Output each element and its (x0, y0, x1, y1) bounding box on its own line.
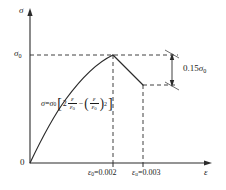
formula-fraction-1: εε0 (68, 96, 77, 112)
stress-strain-figure: σ ε 0 σ0 ε0=0.002 εu=0.003 0.15σ0 σ=σ0[2… (0, 0, 226, 190)
drop-dimension-arrow (165, 50, 179, 90)
drop-value: 0.15 (183, 63, 199, 73)
formula-coefficient: 2 (63, 99, 67, 108)
formula-frac2-denominator: ε0 (91, 104, 98, 112)
epsu-value: =0.003 (138, 168, 161, 177)
sigma0-tick-label: σ0 (14, 49, 22, 59)
y-axis-label: σ (19, 6, 23, 15)
formula-frac2-den-sub: 0 (94, 106, 96, 111)
drop-sigma-subscript: 0 (203, 68, 206, 74)
constitutive-equation: σ=σ0[2εε0−(εε0)2] (41, 96, 114, 112)
formula-close-paren: ) (100, 97, 104, 111)
eps0-value: =0.002 (94, 168, 117, 177)
x-axis-label: ε (204, 168, 208, 177)
sigma0-subscript: 0 (18, 53, 21, 59)
formula-frac1-numerator: ε (70, 96, 75, 103)
formula-frac2-numerator: ε (92, 96, 97, 103)
stress-drop-label: 0.15σ0 (183, 64, 206, 74)
figure-canvas (0, 0, 226, 190)
formula-close-bracket: ] (107, 96, 114, 111)
x-axis (30, 160, 212, 165)
formula-frac1-denominator: ε0 (69, 104, 76, 112)
epsu-tick-label: εu=0.003 (132, 169, 160, 178)
formula-frac1-den-sub: 0 (73, 106, 75, 111)
descending-branch (113, 55, 143, 85)
formula-open-bracket: [ (56, 96, 63, 111)
formula-fraction-2: εε0 (90, 96, 99, 112)
formula-open-paren: ( (84, 97, 88, 111)
y-axis (27, 8, 32, 163)
eps0-tick-label: ε0=0.002 (88, 169, 116, 178)
origin-label: 0 (20, 158, 25, 167)
